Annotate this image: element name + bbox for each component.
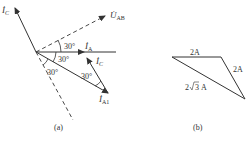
caption-b: (b) [193, 123, 203, 132]
current-triangle [172, 57, 245, 99]
ia-label: İA [84, 41, 93, 52]
angle-label-ia-ia1: 30° [58, 55, 69, 64]
svg-text:2: 2 [185, 83, 189, 92]
svg-text:A: A [201, 83, 207, 92]
figure-a: İC U̇AB İA İA1 İC 30° 30° 30° 30° (a) [1, 5, 125, 132]
angle-arc-uab-ia [58, 40, 61, 52]
angle-arc-ia1-dashed [43, 59, 48, 65]
angle-label-ia1-dashed: 30° [47, 68, 58, 77]
angle-label-uab-ia: 30° [64, 42, 75, 51]
caption-a: (a) [54, 123, 63, 132]
angle-arc-ia1-ic [95, 81, 101, 86]
angle-label-ia1-ic: 30° [81, 72, 92, 81]
angle-arc-ia-ia1 [53, 52, 56, 62]
hypotenuse-label: 2 3 A [185, 82, 207, 92]
svg-text:3: 3 [195, 83, 199, 92]
uab-label: U̇AB [110, 10, 125, 21]
side-top-label: 2A [190, 48, 200, 57]
ia1-label: İA1 [98, 94, 109, 105]
figure-b: 2A 2A 2 3 A (b) [172, 48, 245, 132]
phasor-diagram: İC U̇AB İA İA1 İC 30° 30° 30° 30° (a) 2A… [0, 0, 251, 141]
side-right-label: 2A [233, 65, 243, 74]
ic-long-label: İC [1, 5, 10, 16]
ic-short-label: İC [95, 56, 104, 67]
ic-long-vector [15, 8, 36, 52]
